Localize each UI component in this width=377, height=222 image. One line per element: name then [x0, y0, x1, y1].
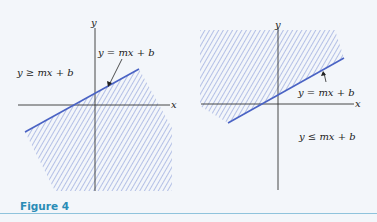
right-y-axis-label: y	[274, 19, 281, 30]
left-boundary-label: y = mx + b	[97, 47, 155, 58]
left-graph: y x y = mx + b y ≥ mx + b	[16, 17, 177, 191]
left-shaded-region	[25, 69, 172, 191]
right-boundary-label: y = mx + b	[297, 87, 355, 98]
left-x-axis-label: x	[171, 99, 177, 110]
right-region-label: y ≤ mx + b	[298, 131, 356, 142]
left-y-axis-label: y	[90, 17, 97, 28]
caption-divider	[0, 213, 377, 214]
figure-caption: Figure 4	[20, 200, 69, 212]
inequality-figure: y x y = mx + b y ≥ mx + b y x y = mx + b…	[0, 0, 377, 222]
left-region-label: y ≥ mx + b	[16, 67, 74, 78]
arrowhead-icon	[321, 71, 326, 76]
right-shaded-region	[200, 30, 344, 123]
right-x-axis-label: x	[355, 98, 361, 109]
right-graph: y x y = mx + b y ≤ mx + b	[200, 19, 361, 190]
